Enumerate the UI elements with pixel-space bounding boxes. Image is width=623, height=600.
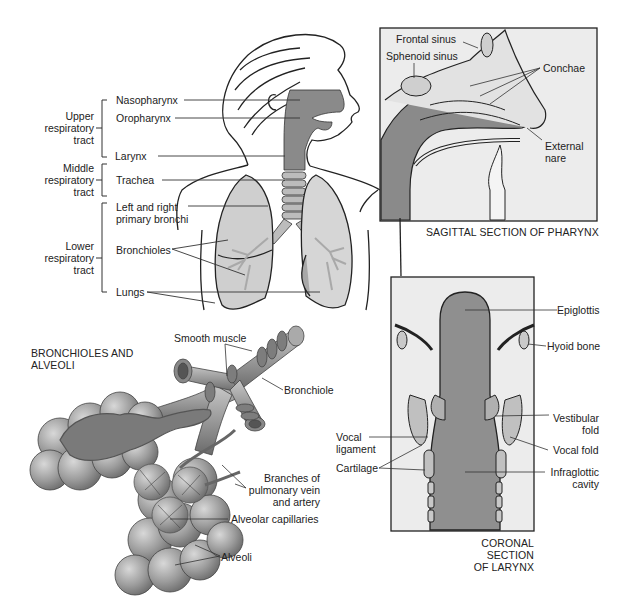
region-middle-line1: Middle	[38, 162, 94, 174]
bronchi-line1: Left and right	[116, 201, 188, 213]
branches-line3: and artery	[244, 496, 320, 508]
region-lower-line1: Lower	[38, 240, 94, 252]
region-upper-line2: respiratory	[38, 122, 94, 134]
larynx-panel-art	[391, 277, 534, 531]
label-pulmonary-branches: Branches of pulmonary vein and artery	[244, 472, 320, 508]
vocal-ligament-line1: Vocal	[336, 431, 376, 443]
label-vocal-fold: Vocal fold	[553, 444, 599, 456]
caption-bronchioles-alveoli: BRONCHIOLES AND ALVEOLI	[31, 347, 133, 371]
region-lower-line2: respiratory	[38, 252, 94, 264]
branches-line1: Branches of	[244, 472, 320, 484]
external-nare-line1: External	[545, 140, 584, 152]
respiratory-diagram-art	[0, 0, 623, 600]
label-larynx: Larynx	[115, 150, 147, 162]
infraglottic-line1: Infraglottic	[543, 466, 599, 478]
bronchi-line2: primary bronchi	[116, 213, 188, 225]
label-primary-bronchi: Left and right primary bronchi	[116, 201, 188, 225]
label-oropharynx: Oropharynx	[116, 112, 171, 124]
vestibular-fold-line2: fold	[545, 424, 599, 436]
label-epiglottis: Epiglottis	[557, 304, 600, 316]
label-sphenoid-sinus: Sphenoid sinus	[386, 50, 458, 62]
region-upper-line1: Upper	[38, 110, 94, 122]
label-frontal-sinus: Frontal sinus	[396, 33, 456, 45]
external-nare-line2: nare	[545, 152, 584, 164]
region-brackets	[96, 100, 107, 292]
label-bronchioles: Bronchioles	[116, 244, 171, 256]
alveoli-caption-line1: BRONCHIOLES AND	[31, 347, 133, 359]
label-smooth-muscle: Smooth muscle	[174, 332, 246, 344]
region-middle-line3: tract	[38, 186, 94, 198]
label-alveoli: Alveoli	[221, 551, 252, 563]
region-middle-line2: respiratory	[38, 174, 94, 186]
label-lungs: Lungs	[116, 286, 145, 298]
region-lower-line3: tract	[38, 264, 94, 276]
branches-line2: pulmonary vein	[244, 484, 320, 496]
coronal-caption-line2: OF LARYNX	[433, 561, 534, 573]
vestibular-fold-line1: Vestibular	[545, 412, 599, 424]
region-label-upper: Upper respiratory tract	[38, 110, 94, 146]
label-external-nare: External nare	[545, 140, 584, 164]
label-nasopharynx: Nasopharynx	[116, 94, 178, 106]
label-conchae: Conchae	[543, 62, 585, 74]
caption-coronal-section: CORONAL SECTION OF LARYNX	[433, 537, 534, 573]
label-vocal-ligament: Vocal ligament	[336, 431, 376, 455]
vocal-ligament-line2: ligament	[336, 443, 376, 455]
region-label-lower: Lower respiratory tract	[38, 240, 94, 276]
caption-sagittal-section: SAGITTAL SECTION OF PHARYNX	[426, 226, 599, 238]
region-label-middle: Middle respiratory tract	[38, 162, 94, 198]
alveoli-caption-line2: ALVEOLI	[31, 359, 133, 371]
lungs-illustration	[215, 175, 352, 309]
label-hyoid-bone: Hyoid bone	[547, 340, 600, 352]
label-vestibular-fold: Vestibular fold	[545, 412, 599, 436]
label-infraglottic-cavity: Infraglottic cavity	[543, 466, 599, 490]
label-bronchiole: Bronchiole	[284, 384, 334, 396]
infraglottic-line2: cavity	[543, 478, 599, 490]
label-trachea: Trachea	[116, 174, 154, 186]
coronal-caption-line1: CORONAL SECTION	[433, 537, 534, 561]
label-alveolar-capillaries: Alveolar capillaries	[231, 513, 319, 525]
label-cartilage: Cartilage	[336, 462, 378, 474]
region-upper-line3: tract	[38, 134, 94, 146]
